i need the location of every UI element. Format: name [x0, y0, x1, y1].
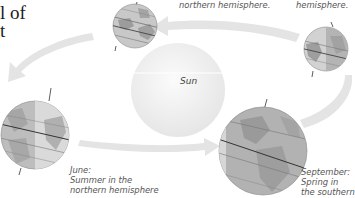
sun	[131, 43, 225, 137]
globe-september	[215, 99, 310, 198]
sun-label: Sun	[180, 76, 197, 86]
orbit-arrow-right	[300, 75, 352, 128]
caption-top-center: northern hemisphere.	[179, 0, 270, 10]
orbit-arrow-top	[152, 16, 300, 42]
caption-top-right: hemisphere.	[296, 0, 348, 10]
caption-june-line-1: June:	[70, 165, 159, 175]
orbit-arrow-left	[8, 33, 94, 82]
caption-september: September: Spring in the southern	[301, 167, 355, 197]
caption-september-line-2: Spring in	[301, 177, 355, 187]
caption-june-line-2: Summer in the	[70, 175, 159, 185]
globe-june	[0, 88, 75, 175]
caption-september-line-1: September:	[301, 167, 355, 177]
caption-june-line-3: northern hemisphere	[70, 185, 159, 195]
globe-top-right	[300, 22, 352, 77]
orbit-arrow-bottom	[78, 138, 220, 156]
caption-september-line-3: the southern	[301, 187, 355, 197]
globe-top-left	[110, 2, 160, 51]
caption-june: June: Summer in the northern hemisphere	[70, 165, 159, 195]
